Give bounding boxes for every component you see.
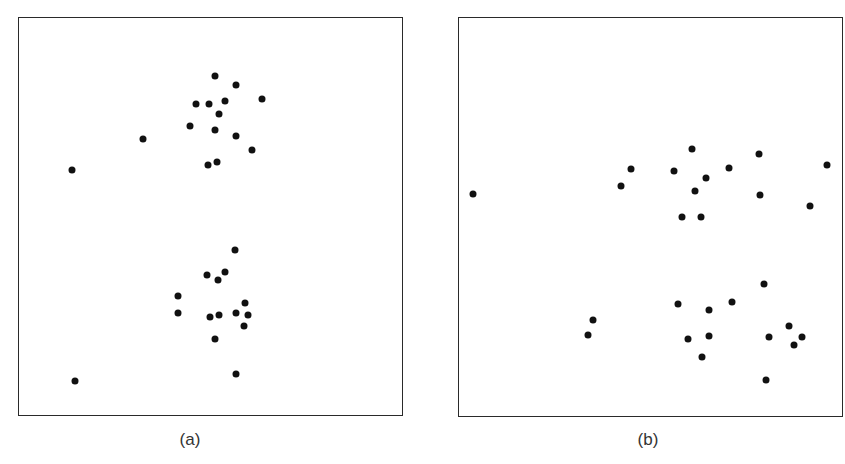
data-point: [214, 159, 221, 166]
data-point: [791, 342, 798, 349]
data-point: [675, 301, 682, 308]
scatter-panel-a: [18, 17, 403, 416]
data-point: [618, 183, 625, 190]
data-point: [259, 96, 266, 103]
data-point: [245, 312, 252, 319]
data-point: [212, 127, 219, 134]
data-point: [756, 151, 763, 158]
data-point: [689, 146, 696, 153]
data-point: [193, 101, 200, 108]
caption-a: (a): [180, 430, 201, 450]
data-point: [175, 293, 182, 300]
data-point: [729, 299, 736, 306]
data-point: [249, 147, 256, 154]
data-point: [212, 336, 219, 343]
data-point: [671, 168, 678, 175]
data-point: [175, 310, 182, 317]
data-point: [140, 136, 147, 143]
data-point: [807, 203, 814, 210]
scatter-panel-b: [458, 17, 843, 417]
data-point: [233, 310, 240, 317]
data-point: [698, 214, 705, 221]
data-point: [232, 247, 239, 254]
data-point: [72, 378, 79, 385]
data-point: [679, 214, 686, 221]
data-point: [706, 307, 713, 314]
data-point: [699, 354, 706, 361]
data-point: [761, 281, 768, 288]
data-point: [585, 332, 592, 339]
data-point: [786, 323, 793, 330]
data-point: [470, 191, 477, 198]
data-point: [222, 269, 229, 276]
data-point: [205, 162, 212, 169]
data-point: [726, 165, 733, 172]
data-point: [233, 371, 240, 378]
data-point: [233, 133, 240, 140]
data-point: [628, 166, 635, 173]
data-point: [216, 312, 223, 319]
data-point: [215, 277, 222, 284]
data-point: [241, 323, 248, 330]
data-point: [242, 300, 249, 307]
data-point: [69, 167, 76, 174]
data-point: [233, 82, 240, 89]
data-point: [692, 188, 699, 195]
data-point: [706, 333, 713, 340]
data-point: [824, 162, 831, 169]
data-point: [590, 317, 597, 324]
data-point: [799, 334, 806, 341]
data-point: [757, 192, 764, 199]
data-point: [187, 123, 194, 130]
data-point: [204, 272, 211, 279]
data-point: [207, 314, 214, 321]
data-point: [703, 175, 710, 182]
data-point: [212, 73, 219, 80]
data-point: [763, 377, 770, 384]
data-point: [766, 334, 773, 341]
data-point: [222, 98, 229, 105]
data-point: [216, 111, 223, 118]
data-point: [206, 101, 213, 108]
data-point: [685, 336, 692, 343]
caption-b: (b): [638, 430, 659, 450]
